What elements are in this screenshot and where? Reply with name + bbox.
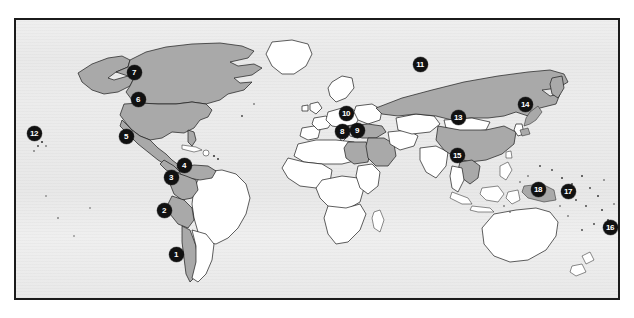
map-marker-17[interactable]: 17 [561, 184, 576, 199]
island-new-zealand-south [570, 264, 586, 276]
landmass-greenland [266, 40, 312, 74]
map-frame [14, 18, 620, 300]
island-caribbean-speck-2 [217, 158, 219, 160]
island-philippines [500, 162, 512, 180]
map-marker-16[interactable]: 16 [603, 220, 618, 235]
world-map-figure: 123456789101112131415161718 [0, 0, 634, 318]
map-marker-10[interactable]: 10 [339, 106, 354, 121]
map-marker-12[interactable]: 12 [27, 126, 42, 141]
map-marker-2[interactable]: 2 [157, 203, 172, 218]
landmass-scandinavia [328, 76, 354, 102]
map-marker-4[interactable]: 4 [177, 158, 192, 173]
landmass-britain [310, 102, 322, 114]
landmass-china [436, 126, 516, 162]
map-marker-11[interactable]: 11 [413, 57, 428, 72]
island-caribbean-speck-1 [213, 155, 215, 157]
map-marker-1[interactable]: 1 [169, 247, 184, 262]
map-marker-8[interactable]: 8 [335, 124, 350, 139]
island-java [470, 206, 494, 212]
landmass-kamchatka [550, 76, 564, 98]
island-sumatra [450, 192, 472, 204]
landmass-southern-africa [324, 204, 366, 244]
landmass-peru [168, 196, 194, 228]
island-sulawesi [506, 190, 520, 204]
landmass-india [420, 146, 448, 178]
map-marker-5[interactable]: 5 [119, 129, 134, 144]
map-marker-3[interactable]: 3 [164, 170, 179, 185]
landmass-thailand-malay [450, 166, 464, 192]
landmass-australia [482, 208, 558, 262]
world-map-landmasses [16, 20, 618, 298]
island-new-zealand-north [582, 252, 594, 264]
island-taiwan [506, 151, 512, 158]
map-marker-15[interactable]: 15 [450, 148, 465, 163]
island-hispaniola [203, 150, 209, 156]
island-madagascar [372, 210, 384, 232]
map-marker-9[interactable]: 9 [350, 123, 365, 138]
landmass-central-asia-stans [396, 114, 440, 134]
landmass-ireland [302, 105, 308, 111]
map-marker-6[interactable]: 6 [131, 92, 146, 107]
map-marker-14[interactable]: 14 [518, 97, 533, 112]
island-borneo [480, 186, 504, 202]
landmass-florida [188, 130, 196, 146]
map-marker-7[interactable]: 7 [127, 65, 142, 80]
map-marker-13[interactable]: 13 [451, 110, 466, 125]
map-marker-18[interactable]: 18 [531, 182, 546, 197]
